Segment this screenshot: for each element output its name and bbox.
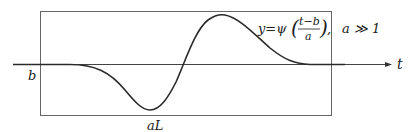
frac-numerator: t−b bbox=[299, 15, 320, 28]
wavelet-diagram: b aL t y=ψ ( t−b a ) , a ≫ 1 bbox=[0, 0, 418, 132]
formula-comma: , bbox=[327, 21, 331, 36]
frac-denominator: a bbox=[305, 30, 312, 43]
origin-label: b bbox=[28, 68, 36, 83]
formula-lhs: y=ψ bbox=[257, 21, 287, 36]
support-box bbox=[41, 12, 332, 116]
axis-arrow-icon bbox=[385, 62, 392, 67]
condition-label: a ≫ 1 bbox=[342, 21, 380, 36]
width-label: aL bbox=[147, 118, 163, 132]
axis-label: t bbox=[397, 56, 403, 72]
